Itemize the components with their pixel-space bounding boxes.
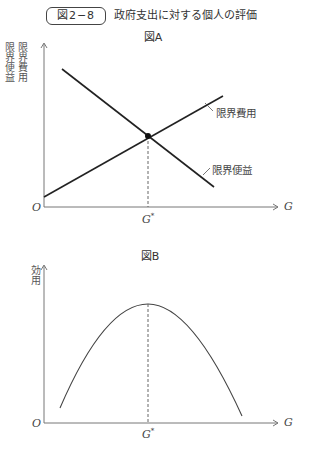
figure-b-axes <box>41 265 278 426</box>
marginal-benefit-line <box>62 69 214 187</box>
figure-b-subtitle: 図B <box>120 247 180 263</box>
marginal-cost-label: 限界費用 <box>216 105 256 120</box>
figure-a-optimum-label: G* <box>142 212 154 226</box>
figure-a-x-label: G <box>284 200 293 213</box>
equilibrium-point <box>145 133 151 139</box>
utility-curve <box>60 304 242 416</box>
figure-a-axes <box>41 43 278 210</box>
figure-b-origin-label: O <box>32 417 41 430</box>
figure-b-y-label: 効用 <box>29 265 40 285</box>
figure-b-x-label: G <box>284 416 293 429</box>
marginal-benefit-label: 限界便益 <box>212 162 252 177</box>
marginal-cost-line <box>44 96 223 197</box>
figure-b-optimum-label: G* <box>142 427 154 441</box>
figure-a-origin-label: O <box>32 201 41 214</box>
